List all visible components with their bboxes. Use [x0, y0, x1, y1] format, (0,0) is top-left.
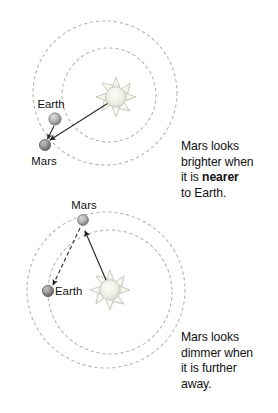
mars-brightness-figure: Earth Mars — [0, 0, 278, 413]
planet-earth-bottom — [42, 285, 53, 296]
caption-top: Mars looks brighter when it is nearer to… — [181, 139, 277, 201]
panel-top: Earth Mars — [31, 21, 177, 167]
arrow-mars-to-earth-bottom — [53, 228, 80, 285]
arrow-earth-to-mars-top — [48, 126, 55, 139]
label-earth-top: Earth — [37, 98, 64, 110]
caption-top-line3-pre: it is — [181, 170, 202, 184]
sun-bottom — [100, 280, 120, 300]
caption-top-line1: Mars looks — [181, 139, 239, 153]
label-earth-bottom: Earth — [55, 285, 82, 297]
caption-top-emphasis: nearer — [202, 170, 239, 184]
caption-bottom-line3: it is further — [181, 361, 237, 375]
planet-mars-top — [39, 139, 50, 150]
planet-earth-top — [49, 113, 61, 125]
caption-bottom-line1: Mars looks — [181, 330, 239, 344]
orbit-mars-top — [33, 21, 177, 165]
caption-bottom-line4: away. — [181, 377, 211, 391]
label-mars-bottom: Mars — [71, 199, 97, 211]
label-mars-top: Mars — [31, 155, 57, 167]
arrow-sun-to-mars-bottom — [85, 231, 106, 280]
panel-bottom: Mars Earth — [27, 199, 185, 368]
caption-top-line2: brighter when — [181, 155, 254, 169]
planet-mars-bottom — [78, 215, 89, 226]
caption-top-line4: to Earth. — [181, 186, 226, 200]
caption-bottom-line2: dimmer when — [181, 346, 253, 360]
sun-top — [106, 87, 126, 107]
caption-bottom: Mars looks dimmer when it is further awa… — [181, 330, 277, 392]
